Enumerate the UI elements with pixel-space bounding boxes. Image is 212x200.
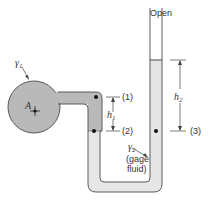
h2-label: h2 (174, 91, 183, 104)
point-3-label: (3) (190, 126, 201, 136)
point-1-dot (94, 95, 98, 99)
gage-label-line2: fluid) (127, 164, 147, 174)
manometer-diagram: Open γ1 A (1) (2) (3) h1 h2 γ2 (gage flu… (0, 0, 212, 200)
point-2-label: (2) (122, 126, 133, 136)
gage-label-line1: (gage (126, 154, 149, 164)
tank-A (8, 81, 60, 133)
gamma1-label: γ1 (15, 57, 22, 70)
point-1-label: (1) (122, 92, 133, 102)
point-2-dot (92, 129, 96, 133)
gamma2-label: γ2 (128, 141, 136, 154)
point-A-label: A (24, 100, 32, 111)
point-3-dot (154, 129, 158, 133)
h1-label: h1 (107, 109, 116, 122)
open-label: Open (150, 8, 172, 18)
